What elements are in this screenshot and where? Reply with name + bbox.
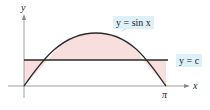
curve-label: y = sin x [113, 16, 154, 29]
tick-pi-label: π [162, 89, 167, 100]
y-axis-arrow-icon [22, 14, 26, 20]
line-label: y = c [176, 54, 202, 67]
x-axis-label: x [193, 80, 197, 91]
shaded-region-middle [48, 33, 143, 60]
x-axis-arrow-icon [184, 84, 190, 88]
y-axis-label: y [21, 2, 25, 13]
